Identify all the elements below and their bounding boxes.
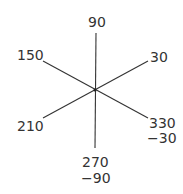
label-270: 270	[82, 154, 109, 170]
label-210: 210	[17, 118, 44, 134]
label-150: 150	[17, 47, 44, 63]
label-90: 90	[88, 14, 106, 30]
label-330: 330	[149, 115, 176, 131]
label-neg30: −30	[147, 130, 177, 146]
label-30: 30	[150, 49, 168, 65]
angle-diagram: 90 30 150 210 270 −90 330 −30	[0, 0, 183, 194]
label-neg90: −90	[81, 170, 111, 186]
center-point	[94, 89, 97, 92]
